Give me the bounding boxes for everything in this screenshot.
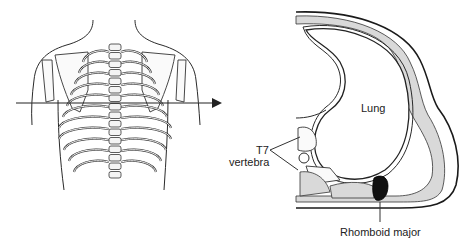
t7-vertebral-body (298, 127, 316, 151)
posterior-thorax (16, 20, 222, 190)
vertebra (109, 87, 121, 94)
vertebra (109, 95, 121, 102)
vertebra (109, 129, 121, 136)
torso-outline-left (58, 100, 64, 190)
rib (59, 117, 109, 128)
rib (64, 139, 109, 150)
rib-fill (63, 106, 109, 117)
humerus-left (42, 60, 54, 102)
vertebra (109, 121, 121, 128)
vertebra (109, 61, 121, 68)
vertebra (109, 44, 121, 51)
rib-fill (59, 117, 109, 128)
rib (63, 106, 109, 117)
vertebra (109, 146, 121, 153)
label-vertebra: vertebra (229, 156, 269, 168)
rib (121, 150, 161, 161)
vertebra (109, 53, 121, 60)
vertebra (109, 104, 121, 111)
rib-fill (121, 117, 171, 128)
arrow-head-icon (212, 98, 222, 108)
vertebra (109, 172, 121, 179)
vertebra (109, 155, 121, 162)
vertebral-column (109, 44, 121, 178)
rib-fill (59, 128, 109, 139)
deep-back-muscle (330, 182, 376, 198)
rib-fill (121, 106, 167, 117)
rib (121, 106, 167, 117)
rib (121, 128, 171, 139)
rib (69, 150, 109, 161)
rib (121, 139, 166, 150)
rib (121, 117, 171, 128)
label-lung: Lung (361, 102, 385, 114)
rib (74, 161, 109, 172)
humerus-right (176, 60, 186, 102)
vertebra (109, 138, 121, 145)
rib (121, 161, 156, 172)
rib (59, 128, 109, 139)
label-rhomboid-major: Rhomboid major (340, 226, 421, 238)
t7-leader-line-upper (270, 137, 300, 150)
thorax-cross-section (270, 12, 458, 222)
t7-leader-line-lower (270, 150, 298, 170)
spinal-canal (299, 153, 309, 163)
vertebra (109, 163, 121, 170)
rib-fill (121, 128, 171, 139)
label-t7: T7 (256, 144, 269, 156)
vertebra (109, 78, 121, 85)
vertebra (109, 112, 121, 119)
vertebra (109, 70, 121, 77)
anatomy-figure (0, 0, 464, 250)
